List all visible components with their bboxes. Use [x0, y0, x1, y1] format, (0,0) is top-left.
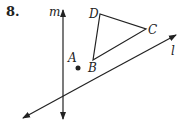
problem-number: 8.: [6, 4, 20, 19]
label-A: A: [67, 51, 77, 65]
label-D: D: [88, 7, 99, 21]
line-l: [100, 35, 176, 76]
point-A: [76, 66, 81, 71]
label-m: m: [49, 5, 60, 19]
label-B: B: [87, 61, 97, 75]
triangle-bcd: [93, 14, 146, 60]
label-l: l: [171, 44, 175, 58]
geometry-figure: 8. m l D C B A: [0, 0, 179, 121]
label-C: C: [148, 23, 157, 37]
line-l-lower: [23, 76, 100, 118]
